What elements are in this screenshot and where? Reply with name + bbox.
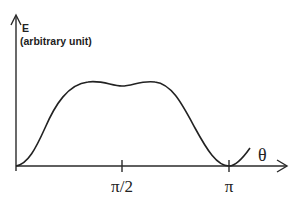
tick-label-pi-half: π/2 (111, 177, 133, 196)
tick-label-pi: π (225, 177, 234, 196)
y-axis-unit-label: (arbitrary unit) (20, 35, 92, 47)
x-axis-symbol: θ (258, 145, 267, 165)
energy-vs-angle-chart: E (arbitrary unit) θ π/2 π (0, 0, 296, 200)
y-axis-symbol: E (22, 22, 29, 34)
energy-curve (16, 82, 250, 166)
